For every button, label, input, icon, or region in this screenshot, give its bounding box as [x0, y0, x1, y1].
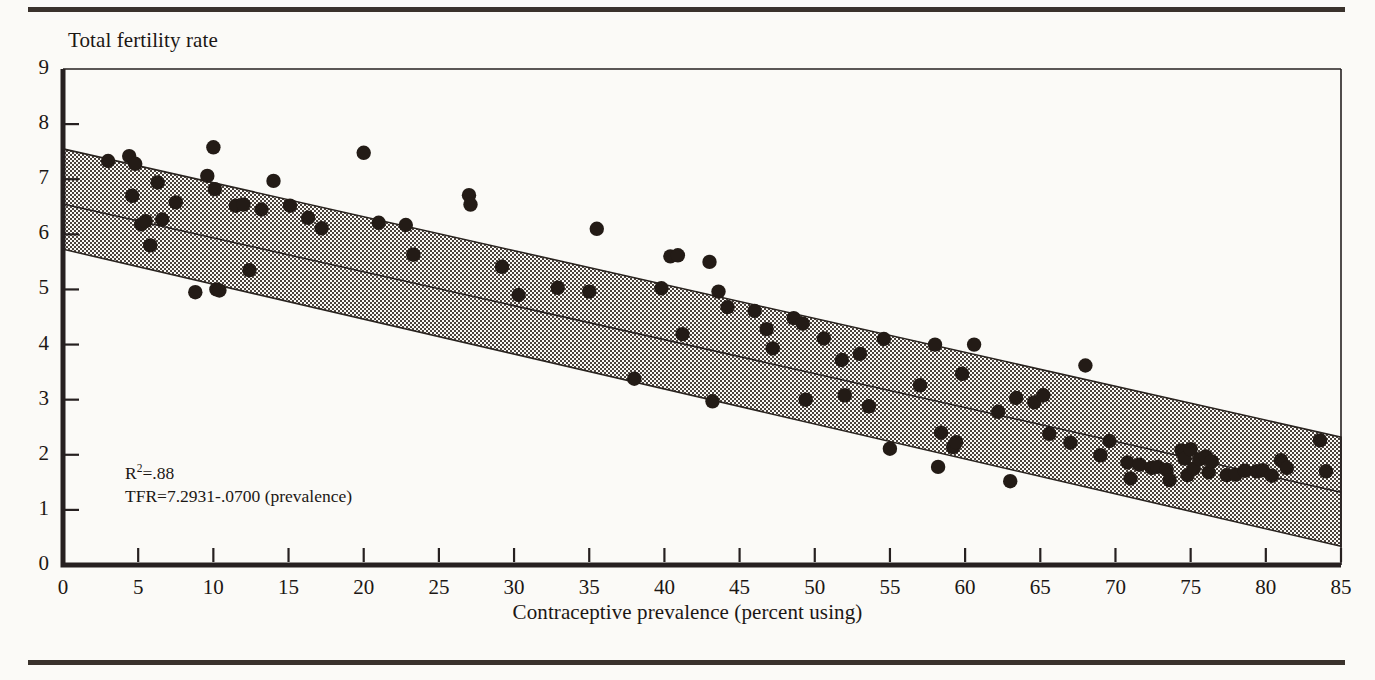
r-squared-symbol: R [125, 463, 137, 483]
x-tick-label: 5 [116, 575, 160, 600]
x-tick-label: 40 [642, 575, 686, 600]
x-tick-label: 20 [342, 575, 386, 600]
x-tick-label: 50 [793, 575, 837, 600]
x-tick-label: 30 [492, 575, 536, 600]
y-tick-label: 0 [15, 551, 49, 576]
y-tick-label: 6 [15, 220, 49, 245]
y-tick-label: 8 [15, 110, 49, 135]
regression-line [63, 204, 1341, 492]
y-tick-label: 9 [15, 55, 49, 80]
x-tick-label: 0 [41, 575, 85, 600]
x-tick-label: 65 [1018, 575, 1062, 600]
x-tick-label: 75 [1169, 575, 1213, 600]
x-tick-label: 60 [943, 575, 987, 600]
regression-annotation: R2=.88 TFR=7.2931-.0700 (prevalence) [125, 462, 352, 509]
y-tick-label: 4 [15, 331, 49, 356]
figure-container: Total fertility rate Contraceptive preva… [0, 0, 1375, 680]
x-tick-label: 15 [267, 575, 311, 600]
x-tick-label: 80 [1244, 575, 1288, 600]
y-tick-label: 1 [15, 496, 49, 521]
x-tick-label: 70 [1093, 575, 1137, 600]
r-squared-value: =.88 [142, 463, 174, 483]
r-squared-line: R2=.88 [125, 462, 352, 485]
x-tick-label: 45 [718, 575, 762, 600]
x-tick-label: 10 [191, 575, 235, 600]
y-tick-label: 7 [15, 165, 49, 190]
y-tick-label: 2 [15, 441, 49, 466]
y-tick-label: 5 [15, 275, 49, 300]
x-tick-label: 35 [567, 575, 611, 600]
equation-line: TFR=7.2931-.0700 (prevalence) [125, 485, 352, 508]
x-tick-label: 25 [417, 575, 461, 600]
x-tick-label: 85 [1319, 575, 1363, 600]
x-tick-label: 55 [868, 575, 912, 600]
y-tick-label: 3 [15, 386, 49, 411]
